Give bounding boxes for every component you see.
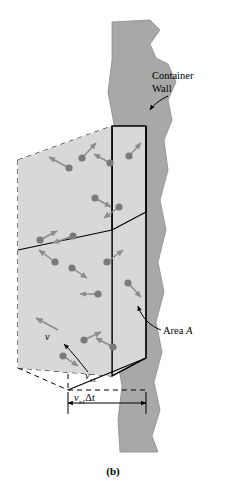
label-container-wall-line1: Container <box>152 70 193 81</box>
molecule <box>115 203 122 210</box>
label-container-wall: Container Wall <box>152 70 193 95</box>
label-area: Area A <box>163 325 192 336</box>
figure-caption: (b) <box>0 465 226 477</box>
molecule <box>65 164 72 171</box>
label-velocity-vector: v <box>45 331 50 342</box>
molecule <box>68 264 75 271</box>
figure-container: Container Wall Area A vx1 v vx1Δt (b) <box>0 0 226 492</box>
molecule <box>78 154 85 161</box>
molecule <box>36 236 43 243</box>
molecule <box>94 290 101 297</box>
label-distance-suffix: Δt <box>85 392 95 403</box>
molecule <box>59 352 66 359</box>
label-vx1: vx1 <box>85 370 96 384</box>
molecule <box>109 343 116 350</box>
label-container-wall-line2: Wall <box>152 83 172 94</box>
molecule <box>51 258 58 265</box>
molecule <box>106 159 113 166</box>
molecule <box>91 194 98 201</box>
molecule <box>80 336 87 343</box>
molecule <box>69 232 76 239</box>
molecule <box>125 152 132 159</box>
label-area-symbol: A <box>186 325 192 336</box>
label-distance: vx1Δt <box>74 392 95 406</box>
label-vx1-sub: x1 <box>90 376 97 384</box>
molecule <box>124 279 131 286</box>
box-front-face <box>112 126 146 376</box>
molecule <box>103 258 110 265</box>
